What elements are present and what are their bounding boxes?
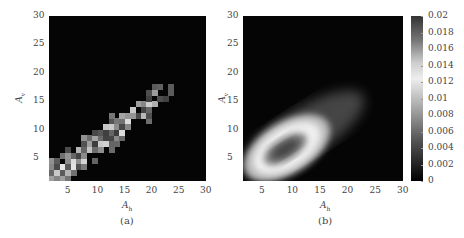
colorbar-tick: 0.012 (428, 76, 454, 86)
y-axis-label-a: Av (14, 93, 26, 103)
colorbar-tick: 0.002 (428, 159, 454, 169)
y-tick: 20 (227, 67, 238, 77)
x-tick: 5 (259, 185, 265, 195)
heatmap-a (49, 16, 206, 181)
colorbar-tick: 0.018 (428, 27, 454, 37)
heatmap-cell (98, 147, 104, 153)
y-tick: 20 (33, 67, 44, 77)
x-tick: 30 (397, 185, 408, 195)
x-axis-label-a: Ah (122, 200, 132, 212)
heatmap-cell (81, 158, 87, 164)
heatmap-cell (81, 153, 87, 159)
x-tick: 10 (287, 185, 298, 195)
xlabel-sub: h (327, 205, 331, 212)
x-tick: 25 (173, 185, 184, 195)
heatmap-cell (146, 107, 152, 113)
y-tick: 25 (227, 38, 238, 48)
heatmap-cell (163, 96, 169, 102)
y-tick: 25 (33, 38, 44, 48)
x-tick: 5 (65, 185, 71, 195)
colorbar-tick: 0.008 (428, 109, 454, 119)
y-tick: 5 (227, 152, 233, 162)
heatmap-cell (81, 164, 87, 170)
heatmap-b (243, 16, 403, 181)
colorbar-tick: 0.006 (428, 126, 454, 136)
x-tick: 10 (92, 185, 103, 195)
x-tick: 30 (200, 185, 211, 195)
heatmap-cell (152, 101, 158, 107)
colorbar-tick-mark (421, 49, 423, 50)
density-surface (243, 16, 403, 181)
ylabel-text: A (14, 96, 24, 103)
heatmap-cell (125, 124, 131, 130)
heatmap-cell (65, 175, 71, 181)
y-axis-label-b: Av (217, 93, 229, 103)
y-tick: 30 (227, 10, 238, 20)
x-tick: 20 (342, 185, 353, 195)
colorbar-tick: 0 (428, 175, 434, 185)
x-tick: 25 (369, 185, 380, 195)
colorbar-tick-mark (421, 82, 423, 83)
heatmap-cell (71, 170, 77, 176)
y-tick: 5 (33, 152, 39, 162)
y-tick: 10 (227, 124, 238, 134)
heatmap-cell (168, 84, 174, 90)
colorbar-tick-mark (421, 99, 423, 100)
y-tick: 10 (33, 124, 44, 134)
heatmap-cell (119, 130, 125, 136)
colorbar-tick: 0.014 (428, 60, 454, 70)
y-tick: 30 (33, 10, 44, 20)
colorbar-tick-mark (421, 115, 423, 116)
heatmap-cell (168, 90, 174, 96)
heatmap-cell (125, 118, 131, 124)
ylabel-text: A (217, 96, 227, 103)
heatmap-cell (109, 147, 115, 153)
y-tick: 15 (33, 95, 44, 105)
colorbar-tick-mark (421, 148, 423, 149)
colorbar-tick: 0.02 (428, 10, 448, 20)
ylabel-sub: v (19, 93, 26, 96)
x-tick: 15 (314, 185, 325, 195)
x-axis-label-b: Ah (320, 200, 330, 212)
x-tick: 15 (119, 185, 130, 195)
xlabel-sub: h (129, 205, 133, 212)
heatmap-cell (157, 84, 163, 90)
colorbar-tick: 0.016 (428, 43, 454, 53)
colorbar-tick: 0.004 (428, 142, 454, 152)
colorbar-tick-mark (421, 132, 423, 133)
colorbar-tick: 0.01 (428, 93, 448, 103)
heatmap-cell (114, 141, 120, 147)
ylabel-sub: v (222, 93, 229, 96)
heatmap-cell (146, 113, 152, 119)
colorbar-tick-mark (421, 165, 423, 166)
heatmap-cell (119, 135, 125, 141)
colorbar-tick-mark (421, 33, 423, 34)
heatmap-cell (146, 118, 152, 124)
colorbar-tick-mark (421, 16, 423, 17)
x-tick: 20 (146, 185, 157, 195)
caption-b: (b) (318, 215, 332, 226)
caption-a: (a) (120, 215, 134, 226)
heatmap-cell (92, 158, 98, 164)
colorbar-tick-mark (421, 181, 423, 182)
colorbar-tick-mark (421, 66, 423, 67)
